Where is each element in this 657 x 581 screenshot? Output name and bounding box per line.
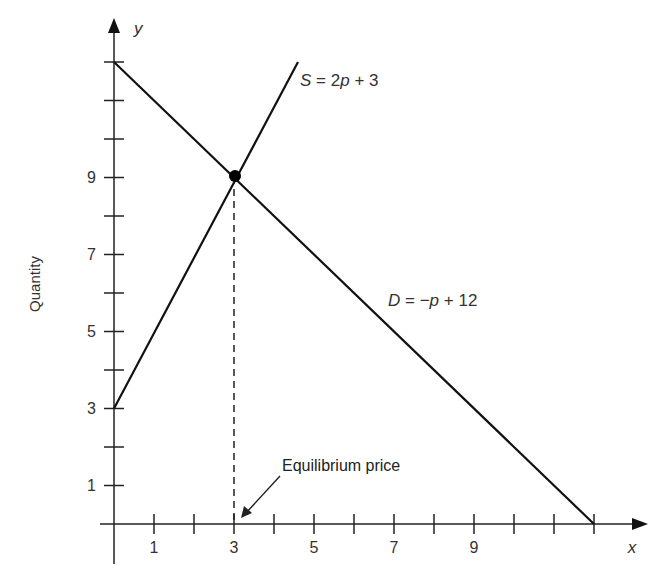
x-tick-label: 5 <box>310 539 319 556</box>
y-tick-label: 3 <box>87 400 96 417</box>
y-tick-label: 7 <box>87 246 96 263</box>
x-tick-label: 1 <box>150 539 159 556</box>
x-tick-label: 3 <box>230 539 239 556</box>
x-tick-label: 9 <box>470 539 479 556</box>
x-tick-label: 7 <box>390 539 399 556</box>
y-axis-arrow-icon <box>108 18 120 33</box>
equilibrium-price-annotation: Equilibrium price <box>282 457 400 474</box>
y-axis-var-label: y <box>133 19 144 38</box>
y-tick-label: 5 <box>87 323 96 340</box>
demand-label: D = −p + 12 <box>388 291 477 310</box>
demand-line <box>114 62 594 524</box>
equilibrium-point <box>229 170 241 182</box>
y-tick-label: 9 <box>87 169 96 186</box>
x-axis-arrow-icon <box>632 518 648 530</box>
supply-line <box>114 62 298 409</box>
x-axis-label: x <box>627 538 637 557</box>
supply-label: S = 2p + 3 <box>300 71 379 90</box>
y-tick-label: 1 <box>87 477 96 494</box>
y-axis-label: Quantity <box>26 256 43 312</box>
chart: 1 3 5 7 9 x 1 3 5 7 9 y Quantity S = 2p … <box>0 0 657 581</box>
annotation-arrow-line <box>246 476 280 513</box>
